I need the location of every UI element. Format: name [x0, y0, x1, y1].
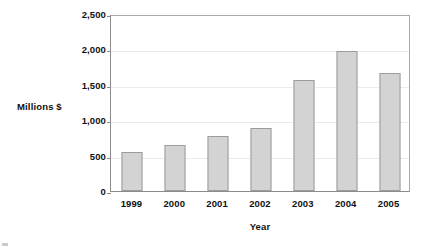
y-axis-tick-label: 1,500 [36, 80, 106, 91]
bar-slot [325, 16, 368, 191]
y-axis-tick-label: 500 [36, 151, 106, 162]
bar [208, 136, 229, 191]
x-axis-tick-label: 1999 [110, 198, 153, 209]
bar-slot [282, 16, 325, 191]
y-axis-tick-label: 0 [36, 186, 106, 197]
y-axis-tick-label: 1,000 [36, 115, 106, 126]
y-axis-tick-label: 2,500 [36, 9, 106, 20]
bar [293, 80, 314, 191]
x-axis-tick-label: 2004 [324, 198, 367, 209]
x-axis-tick-label: 2003 [281, 198, 324, 209]
x-axis-tick-label: 2005 [367, 198, 410, 209]
x-axis-tick-label: 2002 [239, 198, 282, 209]
plot-area [110, 15, 410, 192]
x-axis-tick-labels: 1999200020012002200320042005 [110, 198, 410, 212]
x-axis-tick-label: 2000 [153, 198, 196, 209]
bar [122, 152, 143, 191]
y-axis-tick-labels: 2,5002,0001,5001,0005000 [32, 15, 106, 192]
bar-slot [197, 16, 240, 191]
y-axis-tick-label: 2,000 [36, 44, 106, 55]
x-axis-title: Year [110, 221, 410, 232]
scan-artifact-mark [2, 243, 8, 246]
bar [336, 51, 357, 191]
bar-slot [154, 16, 197, 191]
bar-chart-figure: Millions $ 2,5002,0001,5001,0005000 1999… [0, 0, 422, 251]
y-axis-tick [107, 193, 111, 194]
bar-slot [240, 16, 283, 191]
bar [379, 73, 400, 191]
bar-slot [111, 16, 154, 191]
bar [250, 128, 271, 191]
x-axis-tick-label: 2001 [196, 198, 239, 209]
bar [165, 145, 186, 191]
bar-slot [368, 16, 411, 191]
